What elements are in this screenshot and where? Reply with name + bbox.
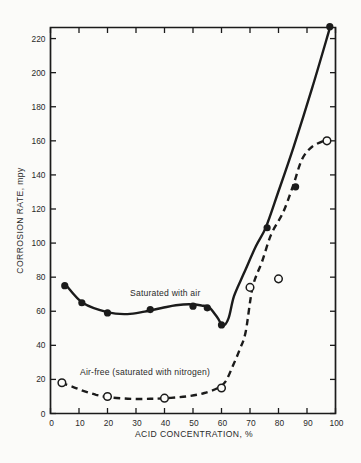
nitrogen-series-label: Air-free (saturated with nitrogen) [80,367,210,377]
y-tick-label: 120 [32,204,46,214]
air-free-nitrogen-point [246,284,254,292]
air-free-nitrogen-point [104,393,112,401]
x-tick-label: 0 [49,418,54,428]
saturated-with-air-point [292,183,299,190]
corrosion-rate-chart: 0102030405060708090100020406080100120140… [0,0,361,463]
x-axis-title: ACID CONCENTRATION, % [135,429,253,439]
y-tick-label: 200 [32,68,46,78]
y-tick-label: 100 [32,238,46,248]
y-tick-label: 0 [41,409,46,419]
saturated-with-air-point [264,224,271,231]
scanned-chart-page: 0102030405060708090100020406080100120140… [0,0,361,463]
y-tick-label: 40 [36,340,46,350]
air-free-nitrogen-point [323,137,331,145]
series-layer [58,23,333,402]
air-free-nitrogen-point [161,394,169,402]
x-tick-label: 10 [75,418,85,428]
y-tick-label: 160 [32,136,46,146]
saturated-with-air-line [66,27,330,325]
y-tick-label: 20 [36,374,46,384]
y-tick-label: 140 [32,170,46,180]
y-tick-label: 220 [32,34,46,44]
x-tick-label: 60 [218,418,228,428]
air-free-nitrogen-point [218,384,226,392]
air-free-nitrogen-point [58,379,66,387]
saturated-with-air-point [204,304,211,311]
air-free-nitrogen-point [275,275,283,283]
axis-ticks [51,28,336,414]
y-tick-label: 60 [36,306,46,316]
y-tick-label: 180 [32,102,46,112]
air-series-label: Saturated with air [130,288,200,298]
saturated-with-air-point [326,23,333,30]
saturated-with-air-point [147,306,154,313]
saturated-with-air-point [61,282,68,289]
saturated-with-air-point [189,303,196,310]
saturated-with-air-point [104,309,111,316]
plot-border [51,28,336,414]
x-tick-label: 80 [275,418,285,428]
x-tick-label: 40 [161,418,171,428]
y-tick-label: 80 [36,272,46,282]
x-tick-label: 70 [246,418,256,428]
saturated-with-air-point [78,299,85,306]
x-tick-label: 20 [104,418,114,428]
x-tick-label: 100 [330,418,344,428]
x-tick-label: 90 [303,418,313,428]
air-free-nitrogen-line [61,140,326,399]
x-tick-label: 30 [132,418,142,428]
x-tick-label: 50 [189,418,199,428]
saturated-with-air-point [218,321,225,328]
plot-frame [51,28,336,414]
y-axis-title: CORROSION RATE, mpy [15,167,25,274]
